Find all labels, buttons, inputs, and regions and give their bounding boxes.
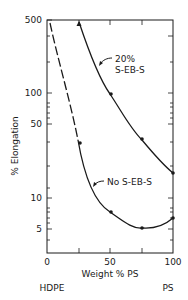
series-20pct-sebs-line <box>79 22 173 173</box>
ytick-500: 500 <box>25 15 42 25</box>
ytick-5: 5 <box>36 224 42 234</box>
xtick-100: 100 <box>164 257 181 267</box>
marker-point <box>78 141 82 145</box>
marker-triangle <box>77 21 82 26</box>
ytick-50: 50 <box>31 119 43 129</box>
x-axis-title: Weight % PS <box>82 269 139 279</box>
ytick-100: 100 <box>25 88 42 98</box>
xtick-0: 0 <box>44 257 50 267</box>
y-axis-title: % Elongation <box>10 116 20 175</box>
marker-point <box>109 210 113 214</box>
marker-point <box>171 216 175 220</box>
hdpe-label: HDPE <box>40 283 65 293</box>
ytick-10: 10 <box>31 193 43 203</box>
marker-point <box>140 226 144 230</box>
marker-point <box>109 92 113 96</box>
xtick-50: 50 <box>104 257 116 267</box>
ps-label: PS <box>162 283 173 293</box>
marker-point <box>140 137 144 141</box>
chart: 500 100 50 10 5 0 50 100 Weight % PS HDP… <box>0 0 188 300</box>
y-ticks-left <box>47 20 52 240</box>
annotation-20pct-line1: 20% <box>115 54 135 64</box>
series-no-sebs-dashed-line <box>50 23 78 140</box>
y-ticks-right <box>168 36 173 240</box>
plot-frame <box>47 20 173 253</box>
annotation-20pct-line2: S-EB-S <box>115 65 145 75</box>
annotation-no-sebs: No S-EB-S <box>107 177 152 187</box>
marker-point <box>171 171 175 175</box>
